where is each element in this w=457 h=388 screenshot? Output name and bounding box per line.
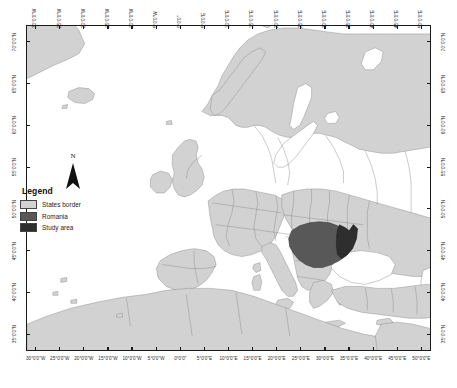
lon-tick-bottom <box>397 347 398 351</box>
lon-label-top: 15°0'0"E <box>249 9 254 27</box>
lon-label-top: 10°0'0"E <box>225 9 230 27</box>
lon-label-bottom: 25°0'0"E <box>292 356 310 361</box>
lon-label-bottom: 40°0'0"E <box>364 356 382 361</box>
lat-tick-left <box>26 292 30 293</box>
lat-label-right: 35°0'0"N <box>441 325 446 343</box>
lon-tick-bottom <box>348 347 349 351</box>
lon-label-top: 30°0'0"W <box>32 8 37 27</box>
lon-label-bottom: 5°0'0"W <box>148 356 165 361</box>
lat-tick-right <box>427 208 431 209</box>
europe-map-figure: 30°0'0"W30°0'0"W25°0'0"W25°0'0"W20°0'0"W… <box>0 0 457 388</box>
lat-label-left: 35°0'0"N <box>12 325 17 343</box>
lon-label-top: 0°0'0" <box>177 15 182 27</box>
lon-label-top: 25°0'0"E <box>298 9 303 27</box>
faroe-islet <box>166 120 172 124</box>
legend-item: Romania <box>20 212 112 221</box>
lon-label-bottom: 45°0'0"E <box>388 356 406 361</box>
lon-label-top: 40°0'0"E <box>370 9 375 27</box>
lon-tick-bottom <box>107 347 108 351</box>
lon-label-bottom: 15°0'0"W <box>98 356 117 361</box>
legend-item: Study area <box>20 223 112 232</box>
lon-tick-bottom <box>180 347 181 351</box>
lon-label-top: 20°0'0"E <box>274 9 279 27</box>
lat-tick-right <box>427 83 431 84</box>
lon-label-top: 45°0'0"E <box>394 9 399 27</box>
lon-tick-bottom <box>324 347 325 351</box>
lat-label-right: 50°0'0"N <box>441 200 446 218</box>
lat-tick-left <box>26 167 30 168</box>
legend-swatch <box>20 200 37 209</box>
lon-tick-bottom <box>421 347 422 351</box>
lat-tick-left <box>26 41 30 42</box>
lon-label-bottom: 5°0'0"E <box>197 356 212 361</box>
legend-item-label: Study area <box>42 224 73 231</box>
lon-label-bottom: 10°0'0"E <box>219 356 237 361</box>
lon-label-top: 25°0'0"W <box>57 8 62 27</box>
lon-tick-bottom <box>59 347 60 351</box>
lat-label-left: 60°0'0"N <box>12 116 17 134</box>
lon-label-top: 20°0'0"W <box>81 8 86 27</box>
legend-swatch <box>20 223 37 232</box>
lon-tick-bottom <box>228 347 229 351</box>
lat-label-right: 55°0'0"N <box>441 158 446 176</box>
lat-label-left: 65°0'0"N <box>12 74 17 92</box>
lat-label-right: 60°0'0"N <box>441 116 446 134</box>
lon-label-top: 5°0'0"W <box>153 11 158 28</box>
legend-item: States border <box>20 200 112 209</box>
lat-tick-left <box>26 250 30 251</box>
lon-label-top: 50°0'0"E <box>418 9 423 27</box>
lat-tick-left <box>26 334 30 335</box>
lat-label-left: 55°0'0"N <box>12 158 17 176</box>
lat-tick-right <box>427 41 431 42</box>
north-arrow-label: N <box>62 152 84 160</box>
lat-tick-left <box>26 125 30 126</box>
lon-tick-bottom <box>156 347 157 351</box>
lon-tick-bottom <box>131 347 132 351</box>
atlantic-islet-a <box>61 277 67 282</box>
lon-label-bottom: 30°0'0"W <box>26 356 45 361</box>
lon-tick-bottom <box>252 347 253 351</box>
lon-label-bottom: 35°0'0"E <box>340 356 358 361</box>
lat-label-right: 40°0'0"N <box>441 283 446 301</box>
lat-label-right: 65°0'0"N <box>441 74 446 92</box>
lon-tick-bottom <box>300 347 301 351</box>
legend-item-label: Romania <box>42 213 68 220</box>
lon-tick-bottom <box>83 347 84 351</box>
lat-label-right: 45°0'0"N <box>441 242 446 260</box>
lon-label-bottom: 30°0'0"E <box>316 356 334 361</box>
lat-tick-right <box>427 167 431 168</box>
lat-tick-left <box>26 83 30 84</box>
lat-tick-right <box>427 334 431 335</box>
levant-polygon <box>375 322 430 350</box>
lon-label-bottom: 20°0'0"E <box>268 356 286 361</box>
lon-label-bottom: 10°0'0"W <box>122 356 141 361</box>
lat-tick-right <box>427 292 431 293</box>
lon-label-top: 10°0'0"W <box>129 8 134 27</box>
north-arrow-icon <box>62 161 84 195</box>
lat-tick-right <box>427 125 431 126</box>
lon-label-bottom: 15°0'0"E <box>244 356 262 361</box>
lon-label-top: 5°0'0"E <box>201 12 206 27</box>
legend-swatch <box>20 212 37 221</box>
lat-label-left: 45°0'0"N <box>12 242 17 260</box>
lon-tick-bottom <box>204 347 205 351</box>
lon-tick-bottom <box>373 347 374 351</box>
legend-item-label: States border <box>42 201 81 208</box>
lon-label-bottom: 20°0'0"W <box>74 356 93 361</box>
lat-tick-right <box>427 250 431 251</box>
lon-label-top: 15°0'0"W <box>105 8 110 27</box>
lat-label-right: 70°0'0"N <box>441 33 446 51</box>
lon-tick-bottom <box>276 347 277 351</box>
lon-tick-bottom <box>35 347 36 351</box>
legend-items: States borderRomaniaStudy area <box>20 200 112 232</box>
lon-label-top: 35°0'0"E <box>346 9 351 27</box>
lon-label-bottom: 50°0'0"E <box>412 356 430 361</box>
lat-label-left: 70°0'0"N <box>12 33 17 51</box>
lat-label-left: 40°0'0"N <box>12 283 17 301</box>
lon-label-bottom: 25°0'0"W <box>50 356 69 361</box>
lon-label-top: 30°0'0"E <box>322 9 327 27</box>
north-arrow: N <box>62 152 84 194</box>
lon-label-bottom: 0°0'0" <box>174 356 186 361</box>
